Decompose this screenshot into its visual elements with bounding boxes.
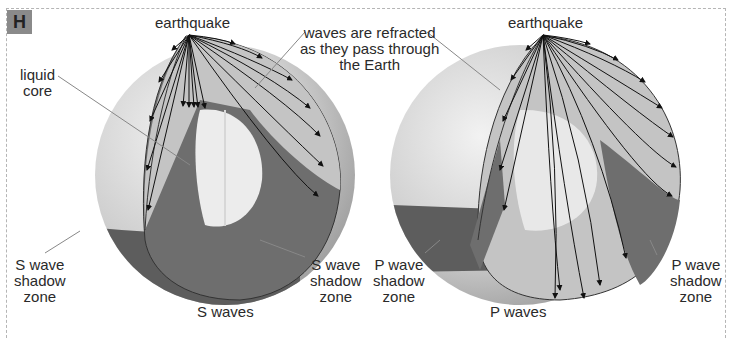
p-waves-caption: P waves — [490, 304, 546, 320]
s-waves-caption: S waves — [197, 304, 254, 320]
s-shadow-zone-label-left: S wave shadow zone — [14, 257, 66, 305]
refraction-label: waves are refracted as they pass through… — [300, 25, 439, 73]
p-shadow-zone-label-right: P wave shadow zone — [670, 257, 722, 305]
s-shadow-zone-label-right: S wave shadow zone — [310, 257, 362, 305]
earthquake-label-right: earthquake — [508, 15, 583, 31]
earthquake-label-left: earthquake — [155, 15, 230, 31]
liquid-core-label: liquid core — [20, 67, 55, 99]
p-wave-globe — [390, 35, 680, 305]
p-shadow-zone-label-left: P wave shadow zone — [373, 257, 425, 305]
